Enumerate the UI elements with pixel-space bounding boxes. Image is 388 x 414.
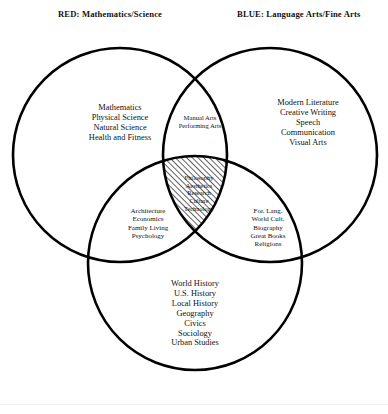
region-label-social-studies: World History U.S. History Local History… [133,279,257,348]
region-item: Religions [233,240,303,248]
region-label-blue-bottom-intersection: For. Lang. World Cult. Biography Great B… [233,207,303,248]
region-item: World Cult. [233,215,303,223]
region-item: Psychology [107,232,189,240]
region-item: Speech [240,118,376,128]
region-item: Technology [168,205,230,213]
region-item: Health and Fitness [36,133,204,143]
region-item: Creative Writing [240,108,376,118]
region-item: For. Lang. [233,207,303,215]
region-item: Research [168,189,230,197]
region-item: U.S. History [133,289,257,299]
region-item: Aesthetics [168,182,230,190]
region-item: Manual Arts [163,114,237,122]
region-item: World History [133,279,257,289]
scan-artifact-line [0,404,388,405]
region-item: Modern Literature [240,98,376,108]
region-item: Economics [107,215,189,223]
region-item: Family Living [107,224,189,232]
region-item: Culture [168,197,230,205]
region-item: Biography [233,224,303,232]
region-item: Communication [240,128,376,138]
region-item: Mathematics [36,103,204,113]
region-item: Sociology [133,329,257,339]
region-item: Local History [133,299,257,309]
region-item: Great Books [233,232,303,240]
region-label-language-arts: Modern Literature Creative Writing Speec… [240,98,376,148]
region-label-center-intersection: Philosophy Aesthetics Research Culture T… [168,174,230,212]
region-item: Geography [133,309,257,319]
region-item: Civics [133,319,257,329]
region-item: Performing Arts [163,122,237,130]
venn-diagram: RED: Mathematics/Science BLUE: Language … [0,0,388,414]
region-item: Philosophy [168,174,230,182]
region-label-red-blue-intersection: Manual Arts Performing Arts [163,114,237,130]
region-item: Urban Studies [133,338,257,348]
region-item: Visual Arts [240,138,376,148]
